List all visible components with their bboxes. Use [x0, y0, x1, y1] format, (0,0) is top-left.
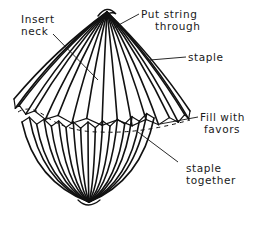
leader-staple — [150, 57, 186, 60]
lower-cone — [22, 114, 154, 205]
pleat-rib — [88, 122, 89, 202]
label-put-string-through: Put string through — [141, 8, 200, 32]
label-staple-together: staple together — [186, 162, 236, 186]
leader-staple-together — [138, 132, 178, 162]
label-insert-neck: Insert neck — [21, 13, 55, 37]
label-fill-with-favors: Fill with favors — [200, 111, 245, 135]
label-staple: staple — [188, 51, 224, 63]
